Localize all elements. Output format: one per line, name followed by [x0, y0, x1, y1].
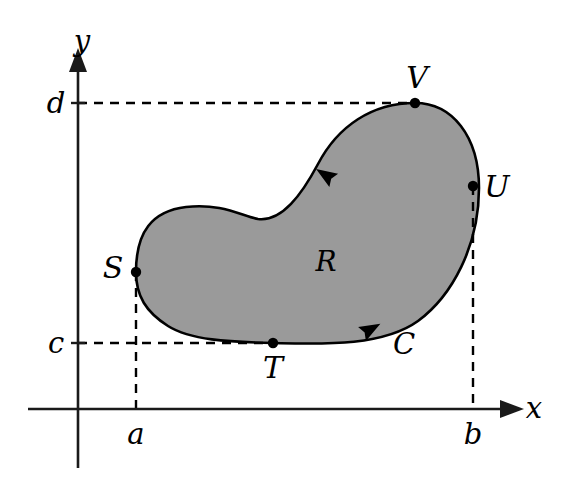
point-label-S: S: [103, 253, 124, 283]
point-marker-S: [131, 267, 141, 277]
tick-label-b: b: [464, 420, 483, 449]
point-marker-V: [410, 98, 420, 108]
point-marker-T: [268, 338, 278, 348]
tick-label-a: a: [127, 420, 144, 449]
tick-label-d: d: [47, 89, 66, 118]
curve-label-C: C: [393, 330, 415, 359]
greens-theorem-figure: y x a b c d S T U V R C: [0, 0, 567, 488]
point-label-V: V: [406, 63, 428, 93]
x-axis-label: x: [526, 394, 542, 423]
point-label-U: U: [484, 172, 509, 202]
region-label-R: R: [315, 248, 336, 276]
y-axis-label: y: [74, 27, 90, 56]
point-marker-U: [468, 181, 478, 191]
x-axis-arrowhead: [500, 400, 524, 418]
region-shape-R: [136, 103, 479, 344]
point-label-T: T: [263, 353, 283, 383]
figure-canvas: [0, 0, 567, 488]
tick-label-c: c: [48, 329, 64, 358]
